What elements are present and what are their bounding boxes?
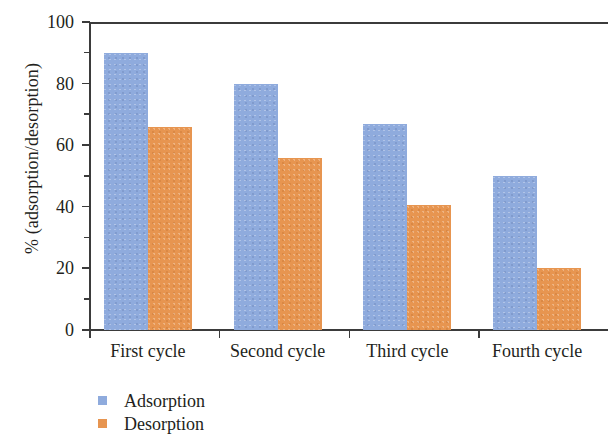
y-axis-tick-label: 80 [4,75,74,93]
bar-adsorption-1 [104,53,148,330]
x-axis-tick-label: Second cycle [208,341,348,362]
x-axis-tick [89,330,91,338]
x-axis-tick [349,330,351,338]
y-axis-tick-label: 0 [4,321,74,339]
x-axis-tick-label: First cycle [78,341,218,362]
legend-swatch-icon [98,396,107,405]
legend-label: Desorption [124,415,204,433]
legend-item-adsorption[interactable]: Adsorption [98,389,205,412]
bar-desorption-4 [537,268,581,330]
bar-desorption-1 [148,127,192,330]
y-axis-tick-label: 40 [4,198,74,216]
y-axis-tick-label: 20 [4,259,74,277]
legend-swatch-icon [98,419,107,428]
bar-adsorption-3 [363,124,407,330]
bar-desorption-2 [278,158,322,330]
y-axis-tick-label: 60 [4,136,74,154]
legend-item-desorption[interactable]: Desorption [98,412,205,435]
x-axis-tick-label: Third cycle [337,341,477,362]
y-axis-tick-label: 100 [4,13,74,31]
bar-desorption-3 [407,205,451,330]
x-axis-tick-label: Fourth cycle [467,341,607,362]
bar-chart-figure: % (adsorption/desorption) 100806040200 F… [0,0,608,439]
legend-label: Adsorption [124,392,205,410]
x-axis-tick [219,330,221,338]
bar-adsorption-2 [234,84,278,330]
x-axis-tick [478,330,480,338]
bar-adsorption-4 [493,176,537,330]
chart-legend: AdsorptionDesorption [98,389,205,435]
bars-layer [89,22,608,330]
